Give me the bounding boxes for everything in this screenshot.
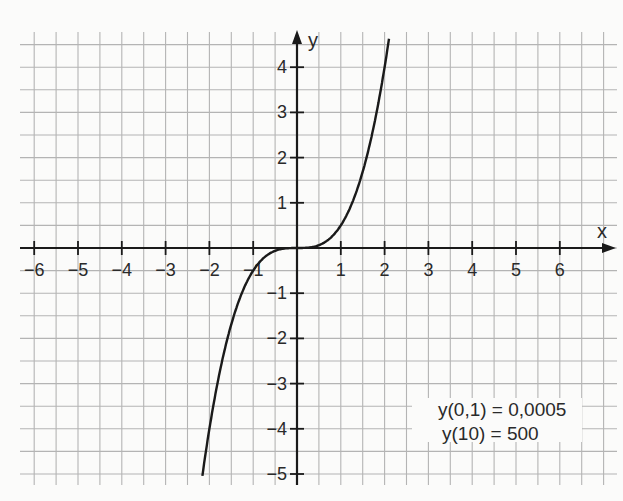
cubic-curve: [202, 39, 389, 476]
x-tick-label: −5: [68, 260, 89, 280]
y-tick-label: 3: [277, 102, 287, 122]
x-axis-label: x: [597, 220, 607, 242]
annotation-y-at-10: y(10) = 500: [442, 423, 539, 444]
y-tick-label: 2: [277, 148, 287, 168]
annotation-y-at-0-1: y(0,1) = 0,0005: [438, 399, 566, 420]
y-tick-label: 4: [277, 57, 287, 77]
x-tick-label: −4: [112, 260, 133, 280]
cubic-function-graph: x y −6−5−4−3−2−11234564321−1−2−3−4−5 y(0…: [0, 0, 623, 501]
annotation-box: y(0,1) = 0,0005 y(10) = 500: [412, 398, 582, 444]
x-axis-arrow-icon: [602, 243, 616, 253]
y-tick-label: −1: [266, 283, 287, 303]
x-tick-label: 5: [511, 260, 521, 280]
y-tick-label: −5: [266, 464, 287, 484]
y-tick-label: 1: [277, 193, 287, 213]
x-tick-label: 3: [423, 260, 433, 280]
x-tick-label: −6: [24, 260, 45, 280]
x-tick-label: 2: [380, 260, 390, 280]
y-tick-label: −4: [266, 419, 287, 439]
x-tick-label: 4: [467, 260, 477, 280]
y-axis-label: y: [308, 29, 318, 51]
y-tick-label: −2: [266, 328, 287, 348]
x-tick-label: 1: [336, 260, 346, 280]
x-tick-label: 6: [555, 260, 565, 280]
y-tick-label: −3: [266, 374, 287, 394]
y-axis-arrow-icon: [292, 30, 302, 44]
x-tick-label: −3: [155, 260, 176, 280]
x-tick-label: −2: [199, 260, 220, 280]
